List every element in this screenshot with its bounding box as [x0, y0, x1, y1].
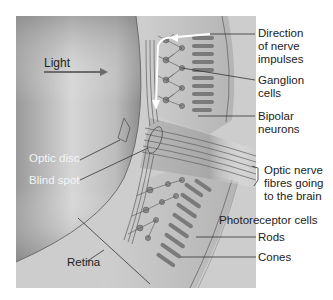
retina-diagram: Light Direction of nerve impulses Gangli…	[0, 0, 333, 300]
label-direction-line3: impulses	[258, 53, 303, 66]
label-direction-line1: Direction	[258, 27, 303, 40]
label-bipolar-line2: neurons	[258, 123, 300, 136]
label-direction-line2: of nerve	[258, 40, 300, 53]
label-optic-nerve-line1: Optic nerve	[264, 164, 323, 177]
label-optic-nerve-line3: to the brain	[264, 190, 322, 203]
label-rods: Rods	[258, 231, 285, 244]
label-blind-spot: Blind spot	[29, 174, 80, 187]
label-light: Light	[44, 57, 70, 70]
label-retina: Retina	[67, 256, 100, 269]
label-optic-disc: Optic disc	[29, 152, 80, 165]
label-bipolar-line1: Bipolar	[258, 110, 294, 123]
label-ganglion-line1: Ganglion	[258, 74, 304, 87]
label-photoreceptor-cells: Photoreceptor cells	[219, 214, 317, 227]
label-cones: Cones	[258, 251, 291, 264]
label-ganglion-line2: cells	[258, 87, 281, 100]
label-optic-nerve-line2: fibres going	[264, 177, 323, 190]
